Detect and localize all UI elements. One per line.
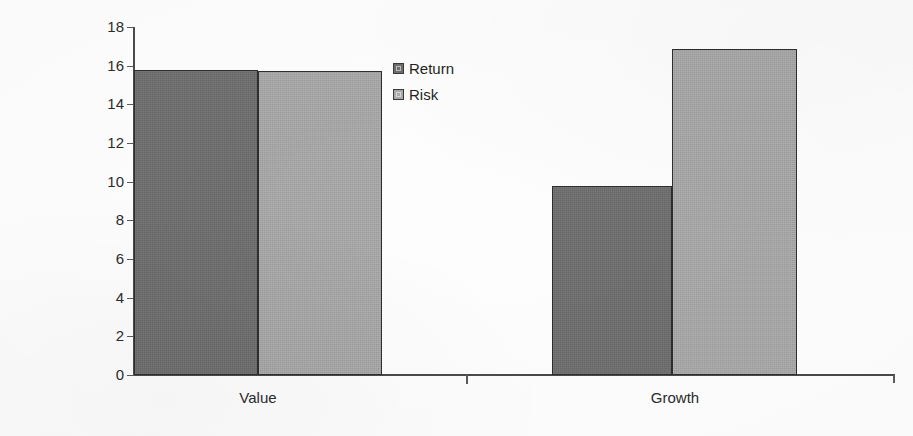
x-axis-label-growth: Growth xyxy=(651,390,699,405)
bar-growth-return[interactable] xyxy=(552,186,672,376)
bar-value-return[interactable] xyxy=(134,70,258,375)
x-axis-end-tick xyxy=(893,375,895,383)
y-axis-tick-label: 8 xyxy=(6,212,124,227)
x-axis-category-divider-tick xyxy=(466,375,468,384)
y-axis-tick-label: 2 xyxy=(6,328,124,343)
y-axis-tick-label: 18 xyxy=(6,19,124,34)
y-axis-tick-label: 16 xyxy=(6,58,124,73)
y-axis-tick-label: 10 xyxy=(6,174,124,189)
bar-growth-risk[interactable] xyxy=(672,49,797,375)
y-axis-tick-label: 14 xyxy=(6,96,124,111)
legend-swatch-return-icon xyxy=(393,63,404,74)
legend-label-return: Return xyxy=(409,61,454,76)
y-axis-tick-label: 12 xyxy=(6,135,124,150)
plot-area xyxy=(134,27,895,375)
bar-value-risk[interactable] xyxy=(258,71,382,376)
legend: Return Risk xyxy=(393,55,454,107)
x-axis-label-value: Value xyxy=(239,390,276,405)
legend-item-return[interactable]: Return xyxy=(393,55,454,81)
bar-chart: 18 16 14 12 10 8 6 4 2 xyxy=(0,0,913,436)
y-axis-tick-label: 0 xyxy=(6,367,124,382)
legend-label-risk: Risk xyxy=(409,87,438,102)
y-axis-tick-label: 4 xyxy=(6,290,124,305)
legend-item-risk[interactable]: Risk xyxy=(393,81,454,107)
legend-swatch-risk-icon xyxy=(393,89,404,100)
y-axis-tick-label: 6 xyxy=(6,251,124,266)
y-axis-tick-mark xyxy=(127,375,134,376)
